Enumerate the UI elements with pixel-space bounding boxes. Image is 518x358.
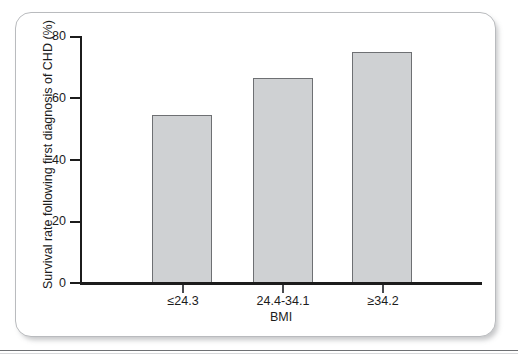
y-tick-label-0-wrap: 0 xyxy=(20,277,66,289)
y-tick-label-20: 20 xyxy=(24,215,66,227)
y-tick-label-40-wrap: 40 xyxy=(20,154,66,166)
y-tick-label-0: 0 xyxy=(24,277,66,289)
x-tick-label-2: ≥34.2 xyxy=(323,294,443,308)
y-tick-label-40: 40 xyxy=(24,154,66,166)
x-axis-line xyxy=(80,282,482,285)
y-tick-label-80-wrap: 80 xyxy=(20,30,66,42)
bar-category-1 xyxy=(253,78,313,284)
x-tick-mark-0 xyxy=(182,285,184,293)
y-tick-label-20-wrap: 20 xyxy=(20,215,66,227)
figure-root: Survival rate following first diagnosis … xyxy=(0,0,518,358)
bar-category-2 xyxy=(352,52,412,285)
x-tick-mark-2 xyxy=(382,285,384,293)
page-divider-rule-shadow xyxy=(0,353,518,354)
y-tick-label-60-wrap: 60 xyxy=(20,92,66,104)
y-axis-line xyxy=(80,36,82,284)
bar-chart-plot: Survival rate following first diagnosis … xyxy=(0,0,518,358)
x-tick-mark-1 xyxy=(282,285,284,293)
y-tick-label-80: 80 xyxy=(24,30,66,42)
page-divider-rule xyxy=(0,350,518,351)
x-axis-title: BMI xyxy=(221,310,341,324)
y-tick-label-60: 60 xyxy=(24,92,66,104)
bar-category-0 xyxy=(152,115,212,284)
